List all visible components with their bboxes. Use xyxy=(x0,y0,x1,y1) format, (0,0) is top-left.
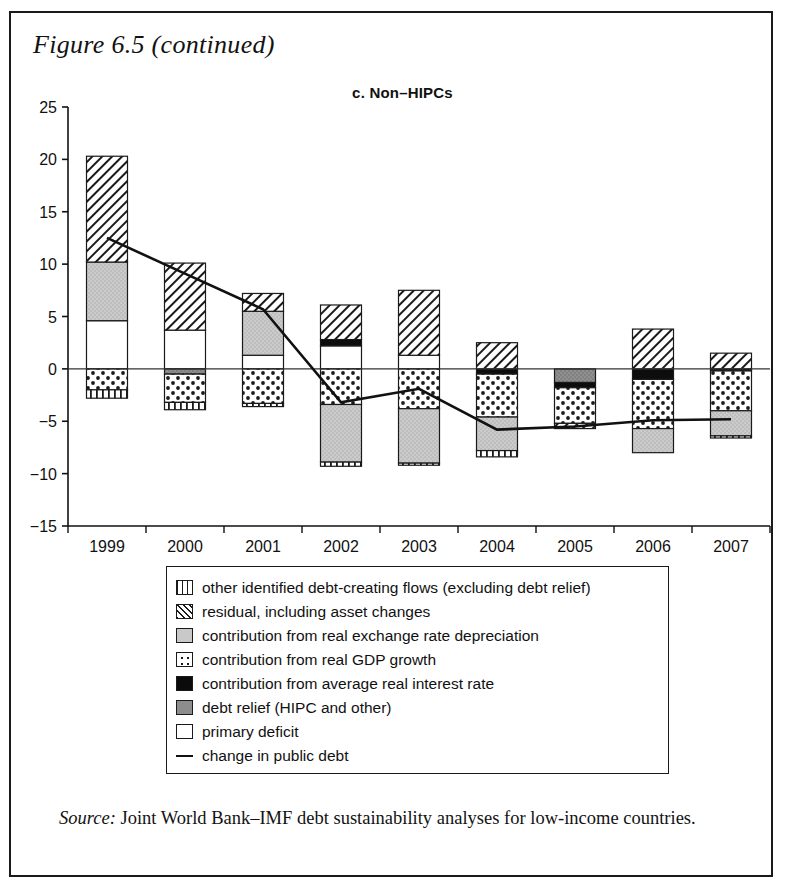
y-tick-label: 0 xyxy=(48,361,57,378)
bar-segment-interest-rate xyxy=(477,369,518,374)
bar-segment-exchange-rate xyxy=(711,411,752,436)
bar-segment-debt-relief xyxy=(165,369,206,374)
x-tick-label: 2002 xyxy=(323,538,359,555)
bar-group-1999 xyxy=(87,156,128,398)
y-tick-label: 25 xyxy=(39,99,57,116)
x-tick-label: 2006 xyxy=(635,538,671,555)
y-tick-label: −10 xyxy=(30,466,57,483)
legend-swatch-diagonal-hatch-icon xyxy=(176,604,193,619)
bar-segment-gdp-growth xyxy=(477,374,518,417)
x-tick-label: 2000 xyxy=(167,538,203,555)
legend-item-label: other identified debt-creating flows (ex… xyxy=(202,579,591,596)
bar-segment-interest-rate xyxy=(555,382,596,387)
legend-swatch-solid-black-icon xyxy=(176,676,193,691)
legend-item-change-public-debt: change in public debt xyxy=(167,743,668,767)
bar-segment-exchange-rate xyxy=(87,262,128,321)
chart-legend: other identified debt-creating flows (ex… xyxy=(166,566,669,774)
bar-segment-residual xyxy=(477,343,518,369)
bar-group-2000 xyxy=(165,263,206,410)
x-tick-label: 2003 xyxy=(401,538,437,555)
source-label: Source: xyxy=(59,808,116,828)
bar-segment-other-flows xyxy=(399,463,440,465)
legend-item-interest-rate: contribution from average real interest … xyxy=(167,671,668,695)
bar-segment-exchange-rate xyxy=(633,429,674,453)
bar-segment-residual xyxy=(711,353,752,369)
legend-list: other identified debt-creating flows (ex… xyxy=(167,567,668,767)
bar-segment-gdp-growth xyxy=(243,369,284,404)
y-tick-label: −5 xyxy=(39,413,57,430)
legend-swatch-line-icon xyxy=(176,748,193,763)
bar-segment-residual xyxy=(87,156,128,262)
bar-segment-gdp-growth xyxy=(555,388,596,424)
bar-segment-interest-rate xyxy=(633,369,674,379)
x-tick-label: 2004 xyxy=(479,538,515,555)
legend-swatch-dotted-icon xyxy=(176,652,193,667)
bar-segment-gdp-growth xyxy=(165,374,206,402)
legend-item-label: change in public debt xyxy=(202,747,349,764)
bar-segment-primary-deficit xyxy=(243,355,284,369)
x-tick-label: 2005 xyxy=(557,538,593,555)
legend-item-label: residual, including asset changes xyxy=(202,603,430,620)
legend-item-label: debt relief (HIPC and other) xyxy=(202,699,392,716)
legend-item-label: contribution from average real interest … xyxy=(202,675,494,692)
legend-item-primary-deficit: primary deficit xyxy=(167,719,668,743)
bar-group-2006 xyxy=(633,329,674,453)
bar-segment-gdp-growth xyxy=(87,369,128,390)
bar-segment-debt-relief xyxy=(555,369,596,383)
legend-item-label: contribution from real exchange rate dep… xyxy=(202,627,539,644)
bar-segment-other-flows xyxy=(321,462,362,466)
bar-segment-primary-deficit xyxy=(165,330,206,369)
bar-group-2003 xyxy=(399,290,440,465)
bar-segment-other-flows xyxy=(165,402,206,409)
bar-segment-primary-deficit xyxy=(87,321,128,369)
x-tick-label: 2007 xyxy=(713,538,749,555)
legend-swatch-white-icon xyxy=(176,724,193,739)
x-tick-label: 1999 xyxy=(89,538,125,555)
x-tick-label: 2001 xyxy=(245,538,281,555)
bar-segment-other-flows xyxy=(711,436,752,438)
bar-segment-gdp-growth xyxy=(711,371,752,411)
bar-segment-other-flows xyxy=(477,451,518,457)
bar-segment-residual xyxy=(633,329,674,369)
bar-segment-exchange-rate xyxy=(243,311,284,355)
bar-segment-other-flows xyxy=(87,390,128,398)
legend-item-gdp-growth: contribution from real GDP growth xyxy=(167,647,668,671)
legend-item-debt-relief: debt relief (HIPC and other) xyxy=(167,695,668,719)
bar-segment-other-flows xyxy=(243,403,284,406)
y-tick-label: 10 xyxy=(39,256,57,273)
y-tick-label: 15 xyxy=(39,204,57,221)
bar-segment-interest-rate xyxy=(321,340,362,346)
source-text: Joint World Bank–IMF debt sustainability… xyxy=(116,808,696,828)
bar-segment-exchange-rate xyxy=(321,404,362,462)
legend-item-label: contribution from real GDP growth xyxy=(202,651,436,668)
source-note: Source: Joint World Bank–IMF debt sustai… xyxy=(33,806,733,831)
bar-segment-primary-deficit xyxy=(399,355,440,369)
legend-swatch-vertical-lines-icon xyxy=(176,580,193,595)
y-tick-label: −15 xyxy=(30,518,57,535)
figure-page: Figure 6.5 (continued) c. Non–HIPCs xyxy=(0,0,785,892)
legend-item-residual: residual, including asset changes xyxy=(167,599,668,623)
bar-segment-residual xyxy=(321,305,362,340)
legend-item-label: primary deficit xyxy=(202,723,298,740)
bar-segment-exchange-rate xyxy=(399,409,440,463)
legend-item-other-flows: other identified debt-creating flows (ex… xyxy=(167,575,668,599)
bar-group-2004 xyxy=(477,343,518,457)
legend-swatch-medium-gray-icon xyxy=(176,700,193,715)
legend-swatch-light-gray-icon xyxy=(176,628,193,643)
y-tick-label: 5 xyxy=(48,309,57,326)
y-tick-label: 20 xyxy=(39,151,57,168)
legend-item-exchange-rate: contribution from real exchange rate dep… xyxy=(167,623,668,647)
bar-group-2007 xyxy=(711,353,752,438)
bar-group-2005 xyxy=(555,369,596,429)
bar-segment-primary-deficit xyxy=(321,346,362,369)
bar-segment-residual xyxy=(399,290,440,355)
